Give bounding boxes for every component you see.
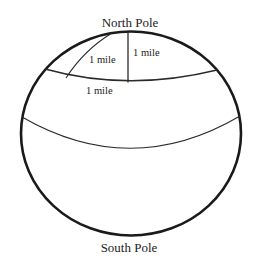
latitude-line-equator [22,116,240,148]
straight-meridian-length-label: 1 mile [133,47,160,58]
latitude-circle-length-label: 1 mile [86,85,113,96]
north-pole-label: North Pole [102,15,159,30]
curved-meridian-length-label: 1 mile [89,54,116,65]
globe-diagram: North Pole South Pole 1 mile 1 mile 1 mi… [0,0,257,260]
south-pole-label: South Pole [101,240,158,255]
globe-outline [21,32,241,236]
